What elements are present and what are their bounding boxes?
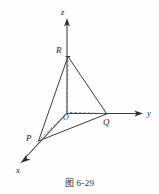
figure-container: z y x R Q P O 图 6-29 [0,0,159,194]
vertex-label-r: R [56,46,62,55]
vertex-label-p: P [26,134,32,143]
vertex-label-q: Q [103,118,110,127]
y-axis-label: y [147,109,151,118]
x-axis-label: x [16,166,20,175]
coordinate-diagram [0,0,159,194]
x-axis-arrow-icon [21,155,31,163]
edge-P-Q [39,114,107,141]
z-axis-label: z [61,8,64,17]
figure-caption: 图 6-29 [0,176,159,189]
origin-label: O [63,114,69,122]
edge-R-Q [68,57,107,114]
